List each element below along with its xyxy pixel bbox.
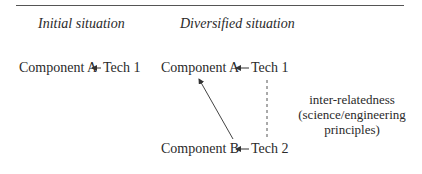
- arrow-tech2-to-compA: [199, 79, 233, 139]
- diagram-edges: [0, 0, 422, 174]
